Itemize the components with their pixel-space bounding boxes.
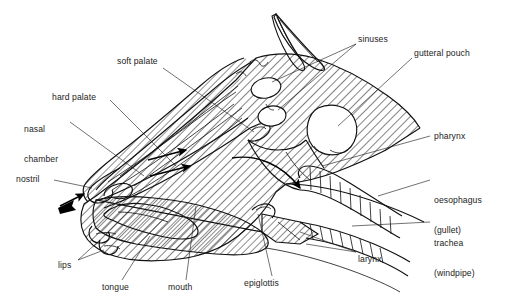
label-soft-palate: soft palate: [117, 56, 158, 66]
label-nasal-chamber-line1: nasal: [24, 124, 58, 134]
label-hard-palate: hard palate: [52, 92, 96, 102]
label-oesophagus-line1: oesophagus: [434, 195, 482, 205]
trachea-tube: [300, 222, 410, 276]
label-trachea-line2: (windpipe): [434, 268, 475, 278]
label-trachea: trachea (windpipe): [434, 218, 475, 298]
label-trachea-line1: trachea: [434, 238, 475, 248]
anatomy-diagram: soft palate hard palate nasal chamber no…: [0, 0, 512, 308]
label-sinuses: sinuses: [358, 34, 388, 44]
label-tongue: tongue: [102, 282, 129, 292]
label-pharynx: pharynx: [434, 131, 465, 141]
label-mouth: mouth: [168, 282, 192, 292]
label-nasal-chamber-line2: chamber: [24, 154, 58, 164]
guttural-pouch: [307, 105, 357, 155]
label-gutteral-pouch: gutteral pouch: [414, 48, 470, 58]
label-larynx: larynx: [358, 254, 382, 264]
label-nostril: nostril: [16, 174, 40, 184]
label-epiglottis: epiglottis: [244, 278, 279, 288]
label-lips: lips: [58, 260, 71, 270]
label-nasal-chamber: nasal chamber: [24, 104, 58, 184]
arrow-nostril-in: [58, 194, 84, 214]
